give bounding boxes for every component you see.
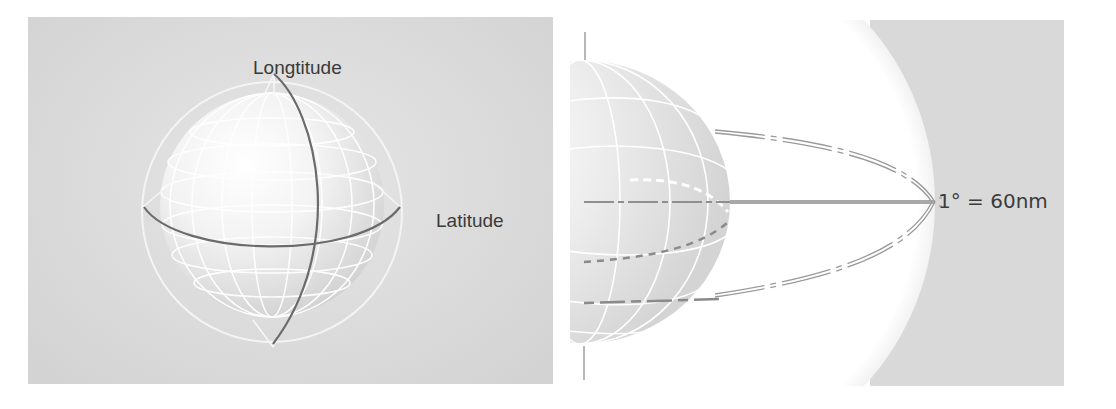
latitude-label: Latitude	[436, 210, 504, 232]
scale-label: 1° = 60nm	[938, 189, 1048, 213]
arc-distance-panel: 1° = 60nm	[570, 20, 1064, 386]
longitude-label: Longtitude	[253, 57, 342, 79]
globe-coordinates-panel: Longtitude Latitude	[28, 17, 553, 384]
